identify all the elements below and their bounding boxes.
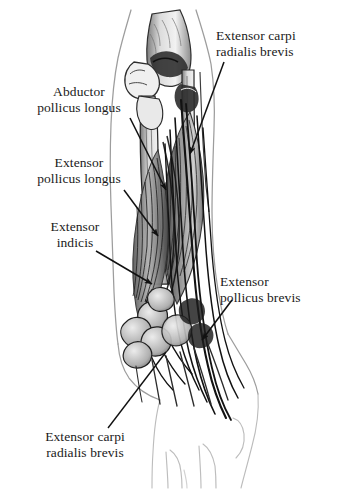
label-line: Extensor carpi [216,28,296,44]
label-line: pollicus brevis [220,290,301,306]
label-line: radialis brevis [22,445,148,461]
label-extensor-pollicus-longus: Extensor pollicus longus [18,155,140,186]
label-line: pollicus longus [18,100,140,116]
label-extensor-carpi-radialis-brevis-top: Extensor carpi radialis brevis [216,28,296,59]
label-abductor-pollicus-longus: Abductor pollicus longus [18,84,140,115]
hand-web-contours [166,418,244,488]
label-line: Extensor carpi [22,429,148,445]
label-extensor-carpi-radialis-brevis-bottom: Extensor carpi radialis brevis [22,429,148,460]
label-extensor-pollicus-brevis: Extensor pollicus brevis [220,274,301,305]
label-line: Extensor [18,155,140,171]
label-line: Extensor [24,219,126,235]
label-line: pollicus longus [18,171,140,187]
label-line: Abductor [18,84,140,100]
label-line: indicis [24,235,126,251]
label-line: Extensor [220,274,301,290]
label-extensor-indicis: Extensor indicis [24,219,126,250]
label-line: radialis brevis [216,44,296,60]
